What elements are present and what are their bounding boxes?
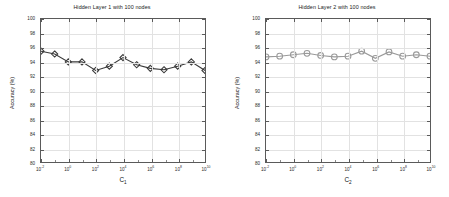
y-axis-tick-label: 86 [30,117,35,122]
y-axis-tick [41,92,44,93]
x-axis-tick-label: 10-2 [36,165,44,172]
y-axis-tick-label: 94 [30,59,35,64]
x-axis-tick [404,19,405,22]
y-axis-tick-label: 90 [255,88,260,93]
gridline-vertical [179,19,180,162]
y-axis-tick-label: 92 [30,74,35,79]
y-axis-tick [202,106,205,107]
gridline-vertical [294,19,295,162]
y-axis-tick [202,34,205,35]
gridline-horizontal [266,135,430,136]
y-axis-tick [266,77,269,78]
x-axis-tick-label: 100 [64,165,71,172]
gridline-horizontal [41,121,205,122]
y-axis-tick [427,135,430,136]
y-axis-tick [427,121,430,122]
x-axis-minor-tick [335,160,336,162]
gridline-vertical [321,19,322,162]
plot-area-left [40,18,206,163]
x-axis-tick-labels-right: 10-21001021041061081010 [265,163,431,177]
x-axis-tick-label: 104 [344,165,351,172]
chart-panel-hidden-layer-2: Hidden Layer 2 with 100 nodes 8082848688… [225,0,449,197]
y-axis-tick-label: 100 [27,16,35,21]
x-axis-minor-tick [193,160,194,162]
x-axis-tick [266,159,267,162]
gridline-vertical [349,19,350,162]
x-axis-tick [404,159,405,162]
y-axis-tick [41,34,44,35]
gridline-horizontal [266,77,430,78]
y-axis-tick-label: 88 [30,103,35,108]
x-axis-minor-tick [166,160,167,162]
y-axis-tick-labels-right: 80828486889092949698100 [225,18,263,163]
x-axis-tick [96,159,97,162]
y-axis-tick [202,150,205,151]
y-axis-tick-label: 86 [255,117,260,122]
x-axis-tick [321,159,322,162]
gridline-horizontal [41,106,205,107]
y-axis-tick [266,48,269,49]
gridline-horizontal [266,92,430,93]
x-axis-tick-labels-left: 10-21001021041061081010 [40,163,206,177]
x-axis-tick [294,19,295,22]
y-axis-title-right: Accuracy (%) [234,58,240,128]
x-axis-tick-label: 104 [119,165,126,172]
y-axis-tick [266,106,269,107]
chart-title-right: Hidden Layer 2 with 100 nodes [225,4,449,10]
x-axis-tick [179,19,180,22]
x-axis-tick-label: 1010 [202,165,211,172]
gridline-horizontal [41,63,205,64]
y-axis-tick [266,150,269,151]
gridline-horizontal [41,135,205,136]
y-axis-tick-label: 80 [30,161,35,166]
y-axis-tick-label: 82 [30,146,35,151]
x-axis-tick [69,159,70,162]
x-axis-title-subscript: 2 [349,180,352,185]
x-axis-tick [41,19,42,22]
x-axis-tick [41,159,42,162]
gridline-horizontal [41,48,205,49]
y-axis-tick [202,121,205,122]
x-axis-minor-tick [363,160,364,162]
y-axis-tick-label: 88 [255,103,260,108]
y-axis-tick [202,19,205,20]
x-axis-tick [294,159,295,162]
x-axis-tick-label: 106 [372,165,379,172]
y-axis-tick-label: 80 [255,161,260,166]
x-axis-tick-label: 1010 [427,165,436,172]
y-axis-tick [41,121,44,122]
gridline-horizontal [41,77,205,78]
gridline-horizontal [266,121,430,122]
x-axis-minor-tick [83,160,84,162]
y-axis-tick-label: 90 [30,88,35,93]
y-axis-tick [202,48,205,49]
x-axis-tick-label: 102 [317,165,324,172]
x-axis-tick [377,19,378,22]
x-axis-tick-label: 108 [400,165,407,172]
gridline-vertical [404,19,405,162]
x-axis-tick [124,19,125,22]
x-axis-tick [377,159,378,162]
x-axis-tick [152,19,153,22]
y-axis-tick-label: 94 [255,59,260,64]
x-axis-tick-label: 106 [147,165,154,172]
x-axis-tick [179,159,180,162]
x-axis-minor-tick [110,160,111,162]
y-axis-tick [427,106,430,107]
x-axis-tick-label: 108 [175,165,182,172]
y-axis-tick-label: 98 [255,30,260,35]
gridline-vertical [69,19,70,162]
x-axis-tick [124,159,125,162]
gridline-horizontal [41,150,205,151]
y-axis-tick-label: 92 [255,74,260,79]
gridline-horizontal [266,106,430,107]
x-axis-minor-tick [308,160,309,162]
y-axis-tick-label: 98 [30,30,35,35]
data-series-right [266,19,430,162]
gridline-horizontal [266,34,430,35]
gridline-horizontal [266,48,430,49]
y-axis-tick-label: 96 [255,45,260,50]
x-axis-title-right: C2 [265,176,431,185]
y-axis-tick-labels-left: 80828486889092949698100 [0,18,38,163]
y-axis-tick [202,135,205,136]
